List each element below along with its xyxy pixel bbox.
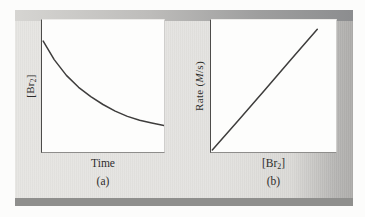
plot-a-curve-svg xyxy=(42,20,164,152)
y-label-b-pre: Rate ( xyxy=(193,83,205,111)
plot-b-line-svg xyxy=(211,20,336,152)
bottom-gray-bar xyxy=(15,198,353,206)
plot-a-caption: (a) xyxy=(41,175,165,187)
y-label-a-subscript: 2 xyxy=(29,78,38,82)
rate-vs-br2-line xyxy=(212,29,317,150)
x-label-b-post: ] xyxy=(281,157,285,169)
plot-b-x-axis-label: [Br2] xyxy=(210,157,337,171)
y-label-a-post: ] xyxy=(24,74,36,78)
y-label-b-post: /s) xyxy=(193,61,205,73)
plot-b-y-axis-label: Rate (M/s) xyxy=(193,61,205,111)
y-label-b-italic-m: M xyxy=(193,73,205,82)
br2-decay-curve xyxy=(43,41,164,126)
y-label-a-pre: [Br xyxy=(24,82,36,98)
plot-a-x-axis-label: Time xyxy=(41,157,165,169)
plot-b-area xyxy=(210,19,337,153)
x-label-b-pre: [Br xyxy=(262,157,277,169)
plot-a-y-axis-label: [Br2] xyxy=(24,74,38,98)
plot-b-caption: (b) xyxy=(210,175,337,187)
plot-a-area xyxy=(41,19,165,153)
figure-scan: [Br2] Time (a) Rate (M/s) [Br2] (b) xyxy=(0,0,365,217)
